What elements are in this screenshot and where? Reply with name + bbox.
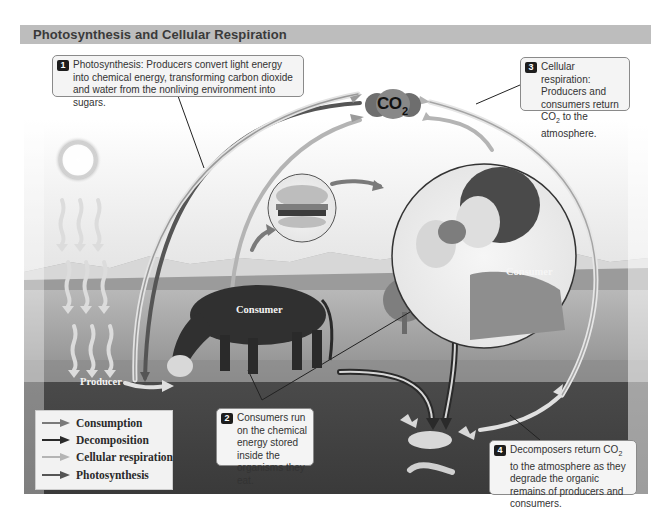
- legend-item-photosynthesis: Photosynthesis: [42, 467, 149, 483]
- callout-number-4: 4: [494, 445, 506, 456]
- callout-photosynthesis: 1 Photosynthesis: Producers convert ligh…: [52, 55, 304, 97]
- callout-number-3: 3: [525, 62, 537, 73]
- legend: Consumption Decomposition Cellular respi…: [35, 410, 173, 490]
- co2-label: CO: [377, 94, 402, 114]
- page-title: Photosynthesis and Cellular Respiration: [33, 27, 287, 42]
- photosynthesis-arrow-icon: [42, 471, 70, 479]
- callout-cellular-respiration: 3 Cellular respiration: Producers and co…: [520, 57, 630, 111]
- callout-text-1: Photosynthesis: Producers convert light …: [73, 59, 298, 109]
- co2-molecule: CO 2: [364, 88, 422, 122]
- callout-text-4: Decomposers return CO2 to the atmosphere…: [510, 444, 631, 511]
- producer-label: Producer: [80, 376, 122, 387]
- legend-item-consumption: Consumption: [42, 415, 142, 431]
- co2-subscript: 2: [402, 105, 408, 117]
- callout-consumers: 2 Consumers run on the chemical energy s…: [216, 408, 314, 466]
- consumption-arrow-icon: [42, 419, 70, 427]
- legend-item-decomposition: Decomposition: [42, 432, 149, 448]
- consumer-person-label: Consumer: [506, 266, 553, 277]
- callout-number-1: 1: [57, 60, 69, 71]
- decomposition-arrow-icon: [42, 436, 70, 444]
- callout-text-3: Cellular respiration: Producers and cons…: [541, 61, 624, 140]
- legend-item-cellular-respiration: Cellular respiration: [42, 449, 173, 465]
- consumer-cow-label: Consumer: [236, 304, 283, 315]
- callout-number-2: 2: [221, 413, 233, 424]
- callout-decomposers: 4 Decomposers return CO2 to the atmosphe…: [489, 440, 637, 495]
- callout-text-2: Consumers run on the chemical energy sto…: [237, 412, 308, 487]
- cellular-respiration-arrow-icon: [42, 453, 70, 461]
